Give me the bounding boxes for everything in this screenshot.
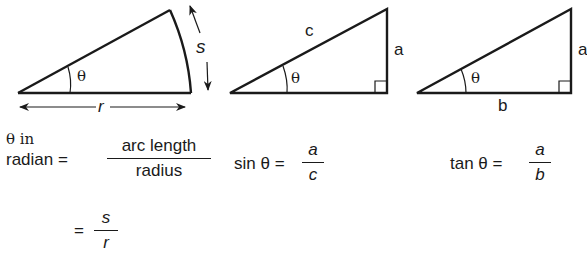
opposite-label-sine: a xyxy=(394,41,403,58)
theta-label-1: θ xyxy=(77,69,86,84)
arc-length-label: s xyxy=(196,37,206,56)
adjacent-label: b xyxy=(498,97,507,114)
arc-over-radius-fraction: arc length radius xyxy=(107,137,211,180)
denominator: radius xyxy=(133,162,185,181)
sine-formula-lhs: sin θ = xyxy=(234,155,285,172)
arc-arrow-down xyxy=(207,62,208,90)
fraction-bar xyxy=(302,162,324,163)
radian-formula-lhs: radian = xyxy=(6,151,68,168)
radian-sector-figure xyxy=(18,6,208,107)
angle-arc xyxy=(68,67,71,93)
numerator: arc length xyxy=(119,137,200,156)
a-over-b-fraction: a b xyxy=(529,141,551,184)
right-angle-marker xyxy=(375,81,387,93)
arc-arrow-up xyxy=(190,6,200,33)
theta-label-2: θ xyxy=(291,71,300,86)
tangent-formula-lhs: tan θ = xyxy=(450,155,502,172)
radius-label: r xyxy=(98,98,104,115)
hypotenuse-label: c xyxy=(305,22,314,39)
radian-formula-eq2: = xyxy=(74,222,84,239)
s-over-r-fraction: s r xyxy=(94,209,118,252)
arc-s xyxy=(170,10,191,93)
fraction-bar xyxy=(107,158,211,159)
radian-formula-line1: θ in xyxy=(6,130,34,147)
fraction-bar xyxy=(94,230,118,231)
theta-label-3: θ xyxy=(471,71,480,86)
opposite-label-tangent: a xyxy=(578,41,587,58)
a-over-c-fraction: a c xyxy=(302,141,324,184)
fraction-bar xyxy=(529,162,551,163)
right-angle-marker xyxy=(559,81,571,93)
diagram-canvas xyxy=(0,0,587,268)
tangent-triangle-figure xyxy=(417,9,571,93)
